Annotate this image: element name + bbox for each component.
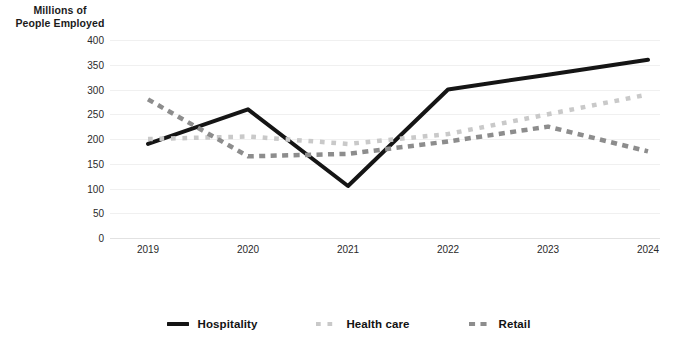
y-tick-label-400: 400 bbox=[64, 35, 104, 46]
dotted-line-swatch bbox=[315, 319, 337, 329]
y-tick-label-200: 200 bbox=[64, 134, 104, 145]
x-tick-label-2020: 2020 bbox=[218, 244, 278, 255]
x-tick-label-2019: 2019 bbox=[118, 244, 178, 255]
y-axis-tick-labels: 050100150200250300350400 bbox=[58, 40, 104, 238]
dashed-line-swatch bbox=[468, 319, 490, 329]
gridline-0 bbox=[110, 238, 660, 239]
y-tick-label-300: 300 bbox=[64, 84, 104, 95]
x-tick-label-2024: 2024 bbox=[618, 244, 678, 255]
legend-label: Health care bbox=[346, 318, 409, 330]
x-tick-label-2021: 2021 bbox=[318, 244, 378, 255]
y-tick-label-150: 150 bbox=[64, 158, 104, 169]
solid-line-swatch bbox=[167, 319, 189, 329]
line-chart: Millions of People Employed 050100150200… bbox=[0, 0, 697, 342]
x-tick-label-2023: 2023 bbox=[518, 244, 578, 255]
legend-item-hospitality[interactable]: Hospitality bbox=[167, 318, 258, 330]
y-axis-title-line-2: People Employed bbox=[6, 17, 114, 30]
y-axis-title: Millions of People Employed bbox=[6, 4, 114, 30]
y-tick-label-250: 250 bbox=[64, 109, 104, 120]
legend-label: Retail bbox=[499, 318, 531, 330]
y-tick-label-350: 350 bbox=[64, 59, 104, 70]
plot-area bbox=[110, 40, 660, 238]
legend-item-retail[interactable]: Retail bbox=[468, 318, 531, 330]
y-tick-label-100: 100 bbox=[64, 183, 104, 194]
series-lines bbox=[110, 40, 660, 238]
legend-item-health-care[interactable]: Health care bbox=[315, 318, 409, 330]
x-axis-tick-labels: 201920202021202220232024 bbox=[110, 244, 660, 260]
chart-legend: HospitalityHealth careRetail bbox=[0, 318, 697, 330]
legend-label: Hospitality bbox=[198, 318, 258, 330]
y-axis-title-line-1: Millions of bbox=[6, 4, 114, 17]
series-line-hospitality bbox=[148, 60, 648, 186]
y-tick-label-0: 0 bbox=[64, 233, 104, 244]
x-tick-label-2022: 2022 bbox=[418, 244, 478, 255]
y-tick-label-50: 50 bbox=[64, 208, 104, 219]
